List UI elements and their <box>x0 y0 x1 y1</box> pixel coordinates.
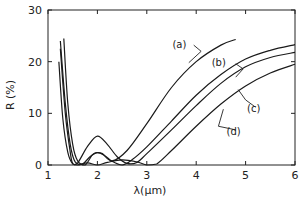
x-tick-label: 1 <box>45 169 52 182</box>
curve-annotations: (a)(b)(c)(d) <box>172 39 260 138</box>
y-tick-label: 30 <box>28 4 42 17</box>
x-tick-label: 2 <box>94 169 101 182</box>
curve-a <box>64 38 236 165</box>
y-tick-labels: 0102030 <box>28 4 42 172</box>
y-tick-label: 20 <box>28 56 42 69</box>
curves <box>59 38 295 165</box>
y-axis-label: R (%) <box>4 80 17 110</box>
y-tick-label: 0 <box>35 159 42 172</box>
x-tick-label: 3 <box>143 169 150 182</box>
leader-line <box>189 45 201 63</box>
annotation-b: (b) <box>212 57 226 68</box>
y-tick-label: 10 <box>28 107 42 120</box>
x-tick-label: 6 <box>292 169 299 182</box>
annotation-c: (c) <box>247 103 260 114</box>
x-tick-label: 4 <box>193 169 200 182</box>
annotation-a: (a) <box>172 39 186 50</box>
x-tick-label: 5 <box>242 169 249 182</box>
x-axis-label: λ(μm) <box>134 184 167 197</box>
reflectance-chart: 123456 0102030 (a)(b)(c)(d) λ(μm) R (%) <box>0 0 303 202</box>
x-tick-labels: 123456 <box>45 169 299 182</box>
